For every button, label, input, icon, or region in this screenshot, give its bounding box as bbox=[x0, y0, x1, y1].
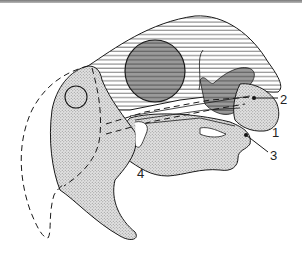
label-1: 1 bbox=[272, 125, 279, 140]
skull-diagram: 1 2 3 4 bbox=[0, 0, 302, 254]
label-3: 3 bbox=[270, 148, 277, 163]
label-2: 2 bbox=[280, 92, 287, 107]
orbit bbox=[125, 40, 185, 102]
label-4: 4 bbox=[137, 166, 144, 181]
auricular-circle bbox=[65, 86, 87, 108]
